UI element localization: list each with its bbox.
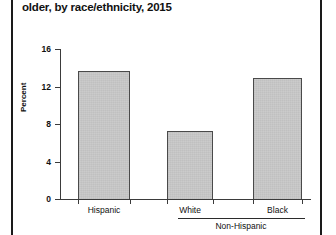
y-tick-label-0: 0 <box>46 194 51 204</box>
y-tick-label-8: 8 <box>46 119 51 129</box>
x-axis-label-hispanic: Hispanic <box>88 205 121 215</box>
x-tick-hispanic-end <box>130 199 131 204</box>
y-axis-line <box>60 49 61 200</box>
non-hispanic-group-rule <box>178 218 305 219</box>
page-border-left-rule <box>11 0 13 235</box>
y-axis-title: Percent <box>19 83 28 112</box>
page-border-right-rule <box>320 0 322 235</box>
figure-container: older, by race/ethnicity, 2015 Percent 0… <box>0 0 336 235</box>
y-tick-12: 12 <box>55 87 60 88</box>
x-tick-white-start <box>167 199 168 204</box>
y-tick-0: 0 <box>55 199 60 200</box>
x-axis-line <box>60 199 311 200</box>
y-tick-16: 16 <box>55 49 60 50</box>
x-tick-black-end <box>302 199 303 204</box>
x-tick-white-end <box>213 199 214 204</box>
x-axis-label-black: Black <box>267 205 288 215</box>
bar-black <box>253 78 302 199</box>
plot-area: 0481216 <box>60 49 310 199</box>
x-axis-label-white: White <box>179 205 201 215</box>
x-tick-hispanic-start <box>78 199 79 204</box>
x-tick-black-start <box>253 199 254 204</box>
y-tick-label-12: 12 <box>42 82 51 92</box>
bar-hispanic <box>78 71 130 199</box>
y-tick-label-16: 16 <box>42 44 51 54</box>
y-tick-8: 8 <box>55 124 60 125</box>
non-hispanic-group-label: Non-Hispanic <box>215 221 266 231</box>
figure-title: older, by race/ethnicity, 2015 <box>22 1 172 13</box>
y-tick-4: 4 <box>55 162 60 163</box>
y-tick-label-4: 4 <box>46 157 51 167</box>
bar-white <box>167 131 213 199</box>
